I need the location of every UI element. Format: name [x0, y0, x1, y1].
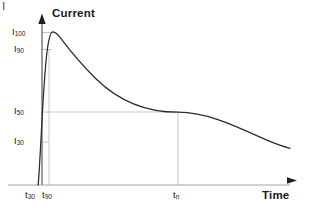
y-tick-sub-i50: 50	[17, 109, 24, 116]
x-tick-label-t30: t30	[25, 190, 35, 200]
y-tick-label-i90: I90	[14, 44, 24, 54]
y-tick-label-i30: I30	[14, 136, 24, 146]
gridlines	[42, 33, 178, 186]
y-tick-label-i50: I50	[14, 106, 24, 116]
x-axis-arrowhead	[287, 177, 297, 184]
y-tick-sub-i30: 30	[17, 139, 24, 146]
x-tick-label-tn: tn	[173, 190, 179, 200]
x-tick-sub-t90: 90	[45, 193, 52, 200]
y-tick-sub-i90: 90	[17, 47, 24, 54]
y-axis-title: Current	[52, 7, 95, 19]
x-tick-label-t90: t90	[42, 190, 52, 200]
current-waveform-curve	[38, 32, 290, 185]
chart-canvas	[0, 0, 310, 213]
y-tick-sub-i100: 100	[15, 30, 26, 37]
axes	[8, 14, 297, 186]
x-tick-sub-tn: n	[176, 193, 180, 200]
x-tick-sub-t30: 30	[28, 193, 35, 200]
x-axis-title: Time	[262, 189, 289, 201]
y-axis-arrowhead	[38, 14, 45, 25]
y-tick-label-i100: I100	[12, 27, 25, 37]
current-vs-time-chart: Current Time I100 I90 I50 I30 t30 t90 tn	[0, 0, 310, 213]
scan-artifact-mark	[3, 2, 4, 10]
